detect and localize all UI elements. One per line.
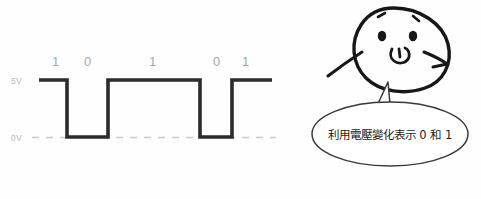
character-illustration: 利用電壓變化表示 0 和 1 (300, 0, 481, 199)
axis-label-high: 5V (11, 76, 22, 86)
speech-bubble-text: 利用電壓變化表示 0 和 1 (328, 128, 453, 142)
left-eye-icon (378, 31, 386, 41)
bit-label-1: 0 (84, 54, 91, 69)
right-arm-icon (424, 52, 447, 67)
digital-signal-trace (39, 80, 272, 137)
screenshot-canvas: 5V 0V 1 0 1 0 1 (0, 0, 481, 199)
waveform-svg: 5V 0V 1 0 1 0 1 (0, 0, 300, 199)
left-brow-icon (378, 13, 385, 17)
axis-label-low: 0V (11, 133, 22, 143)
right-eye-icon (409, 31, 417, 41)
bit-label-3: 0 (213, 54, 220, 69)
waveform-diagram: 5V 0V 1 0 1 0 1 (0, 0, 300, 199)
doodle-svg: 利用電壓變化表示 0 和 1 (300, 0, 481, 199)
bit-label-2: 1 (149, 54, 156, 69)
bit-label-0: 1 (52, 54, 59, 69)
bit-label-4: 1 (242, 54, 249, 69)
right-brow-icon (413, 16, 419, 21)
head-outline-icon (354, 8, 449, 92)
mouth-detail-icon (399, 49, 400, 57)
